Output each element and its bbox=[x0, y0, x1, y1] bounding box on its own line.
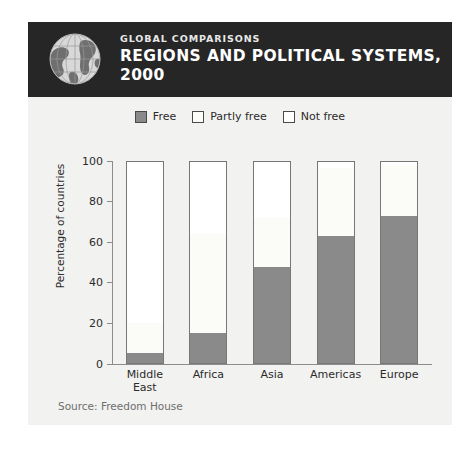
bar-segment[interactable] bbox=[254, 218, 290, 266]
x-label-line: Asia bbox=[240, 368, 304, 381]
stacked-bar[interactable] bbox=[189, 161, 227, 364]
bar-segment[interactable] bbox=[381, 166, 417, 216]
legend-swatch-not-free bbox=[283, 111, 295, 123]
source-note: Source: Freedom House bbox=[58, 400, 183, 412]
legend-label-not-free: Not free bbox=[301, 111, 345, 123]
x-label-americas: Americas bbox=[304, 368, 368, 394]
bar-slot bbox=[367, 161, 431, 364]
bar-segment[interactable] bbox=[127, 323, 163, 353]
bar-slot bbox=[240, 161, 304, 364]
stacked-bar[interactable] bbox=[380, 161, 418, 364]
legend-item-free: Free bbox=[135, 111, 176, 123]
bar-segment[interactable] bbox=[318, 168, 354, 236]
x-label-line: Americas bbox=[304, 368, 368, 381]
legend-label-free: Free bbox=[153, 111, 176, 123]
bar-segment[interactable] bbox=[190, 234, 226, 332]
y-tick-label: 20 bbox=[89, 318, 107, 329]
x-axis-labels: MiddleEastAfricaAsiaAmericasEurope bbox=[113, 368, 431, 394]
x-label-line: Middle bbox=[113, 368, 177, 381]
legend-swatch-free bbox=[135, 111, 147, 123]
header-title-line1: REGIONS AND POLITICAL SYSTEMS, bbox=[120, 47, 444, 66]
y-tick-label: 0 bbox=[96, 359, 107, 370]
stacked-bar[interactable] bbox=[126, 161, 164, 364]
bar-slot bbox=[304, 161, 368, 364]
legend-swatch-partly-free bbox=[192, 111, 204, 123]
bar-segment[interactable] bbox=[318, 162, 354, 168]
header-band: GLOBAL COMPARISONS REGIONS AND POLITICAL… bbox=[28, 22, 452, 97]
header-kicker: GLOBAL COMPARISONS bbox=[120, 32, 444, 45]
bar-slot bbox=[177, 161, 241, 364]
legend-item-not-free: Not free bbox=[283, 111, 345, 123]
bar-segment[interactable] bbox=[190, 162, 226, 234]
bar-slot bbox=[113, 161, 177, 364]
legend-item-partly-free: Partly free bbox=[192, 111, 266, 123]
bar-segment[interactable] bbox=[254, 267, 290, 363]
chart-plot-area: Percentage of countries 020406080100 Mid… bbox=[28, 128, 452, 383]
header-title-line2: 2000 bbox=[120, 66, 444, 85]
legend-label-partly-free: Partly free bbox=[210, 111, 266, 123]
bar-segment[interactable] bbox=[127, 353, 163, 363]
x-label-africa: Africa bbox=[177, 368, 241, 394]
stacked-bar[interactable] bbox=[317, 161, 355, 364]
bar-segment[interactable] bbox=[381, 216, 417, 363]
header-title: REGIONS AND POLITICAL SYSTEMS, 2000 bbox=[120, 47, 444, 85]
y-axis-title: Percentage of countries bbox=[54, 136, 66, 316]
header-text-block: GLOBAL COMPARISONS REGIONS AND POLITICAL… bbox=[120, 32, 444, 85]
infographic-card: GLOBAL COMPARISONS REGIONS AND POLITICAL… bbox=[28, 22, 452, 425]
globe-icon bbox=[47, 31, 103, 87]
y-tick-label: 60 bbox=[89, 237, 107, 248]
x-label-line: East bbox=[113, 381, 177, 394]
bar-segment[interactable] bbox=[254, 162, 290, 218]
bar-segment[interactable] bbox=[318, 236, 354, 363]
stacked-bars bbox=[113, 161, 431, 364]
x-label-asia: Asia bbox=[240, 368, 304, 394]
y-tick-label: 80 bbox=[89, 196, 107, 207]
bar-segment[interactable] bbox=[127, 162, 163, 323]
x-axis-line bbox=[112, 364, 432, 365]
bar-segment[interactable] bbox=[381, 162, 417, 166]
y-tick-label: 100 bbox=[82, 156, 107, 167]
x-label-middle-east: MiddleEast bbox=[113, 368, 177, 394]
bar-segment[interactable] bbox=[190, 333, 226, 363]
y-tick-label: 40 bbox=[89, 277, 107, 288]
stacked-bar[interactable] bbox=[253, 161, 291, 364]
x-label-europe: Europe bbox=[367, 368, 431, 394]
x-label-line: Africa bbox=[177, 368, 241, 381]
chart-legend: Free Partly free Not free bbox=[28, 106, 452, 128]
x-label-line: Europe bbox=[367, 368, 431, 381]
y-axis-ticks: 020406080100 bbox=[68, 161, 112, 364]
